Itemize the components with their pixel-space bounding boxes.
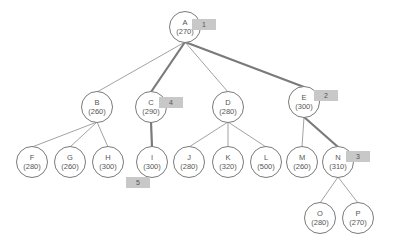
node-label: J xyxy=(187,153,191,162)
node-I: I(300) xyxy=(136,146,168,178)
node-label: L xyxy=(264,153,268,162)
node-O: O(280) xyxy=(304,202,336,234)
node-value: (300) xyxy=(295,102,313,111)
node-label: F xyxy=(30,153,35,162)
edge-D-L xyxy=(228,122,266,147)
node-F: F(280) xyxy=(16,146,48,178)
node-label: O xyxy=(317,209,323,218)
node-value: (300) xyxy=(99,162,117,171)
node-label: B xyxy=(94,98,99,107)
edge-C-I xyxy=(151,122,152,147)
node-label: N xyxy=(335,153,340,162)
edge-A-E xyxy=(185,42,304,87)
node-value: (280) xyxy=(311,218,329,227)
node-label: G xyxy=(67,153,73,162)
node-value: (290) xyxy=(142,107,160,116)
edge-N-O xyxy=(320,177,338,203)
edge-B-F xyxy=(32,122,97,147)
edge-N-P xyxy=(338,177,358,203)
node-G: G(260) xyxy=(54,146,86,178)
order-badge: 3 xyxy=(346,151,370,162)
node-label: D xyxy=(225,98,230,107)
node-label: A xyxy=(182,18,187,27)
node-value: (300) xyxy=(143,162,161,171)
node-K: K(320) xyxy=(212,146,244,178)
node-value: (310) xyxy=(329,162,347,171)
node-L: L(500) xyxy=(250,146,282,178)
node-H: H(300) xyxy=(92,146,124,178)
edge-E-N xyxy=(304,117,338,147)
node-label: E xyxy=(301,93,306,102)
node-P: P(270) xyxy=(342,202,374,234)
node-label: M xyxy=(299,153,305,162)
node-D: D(280) xyxy=(212,91,244,123)
edge-A-B xyxy=(97,42,185,92)
node-value: (260) xyxy=(61,162,79,171)
node-label: I xyxy=(151,153,153,162)
node-value: (280) xyxy=(180,162,198,171)
node-B: B(260) xyxy=(81,91,113,123)
edge-A-C xyxy=(151,42,185,92)
node-label: P xyxy=(355,209,360,218)
edge-E-M xyxy=(302,117,304,147)
node-value: (280) xyxy=(23,162,41,171)
node-value: (260) xyxy=(88,107,106,116)
order-badge: 5 xyxy=(126,177,150,188)
node-J: J(280) xyxy=(173,146,205,178)
node-label: C xyxy=(148,98,153,107)
node-value: (270) xyxy=(349,218,367,227)
node-value: (320) xyxy=(219,162,237,171)
node-value: (500) xyxy=(257,162,275,171)
edge-D-J xyxy=(189,122,228,147)
node-M: M(260) xyxy=(286,146,318,178)
order-badge: 1 xyxy=(192,19,216,30)
node-label: H xyxy=(105,153,110,162)
edge-B-H xyxy=(97,122,108,147)
node-label: K xyxy=(225,153,230,162)
node-value: (280) xyxy=(219,107,237,116)
order-badge: 4 xyxy=(159,97,183,108)
order-badge: 2 xyxy=(314,90,338,101)
edge-B-G xyxy=(70,122,97,147)
node-value: (260) xyxy=(293,162,311,171)
